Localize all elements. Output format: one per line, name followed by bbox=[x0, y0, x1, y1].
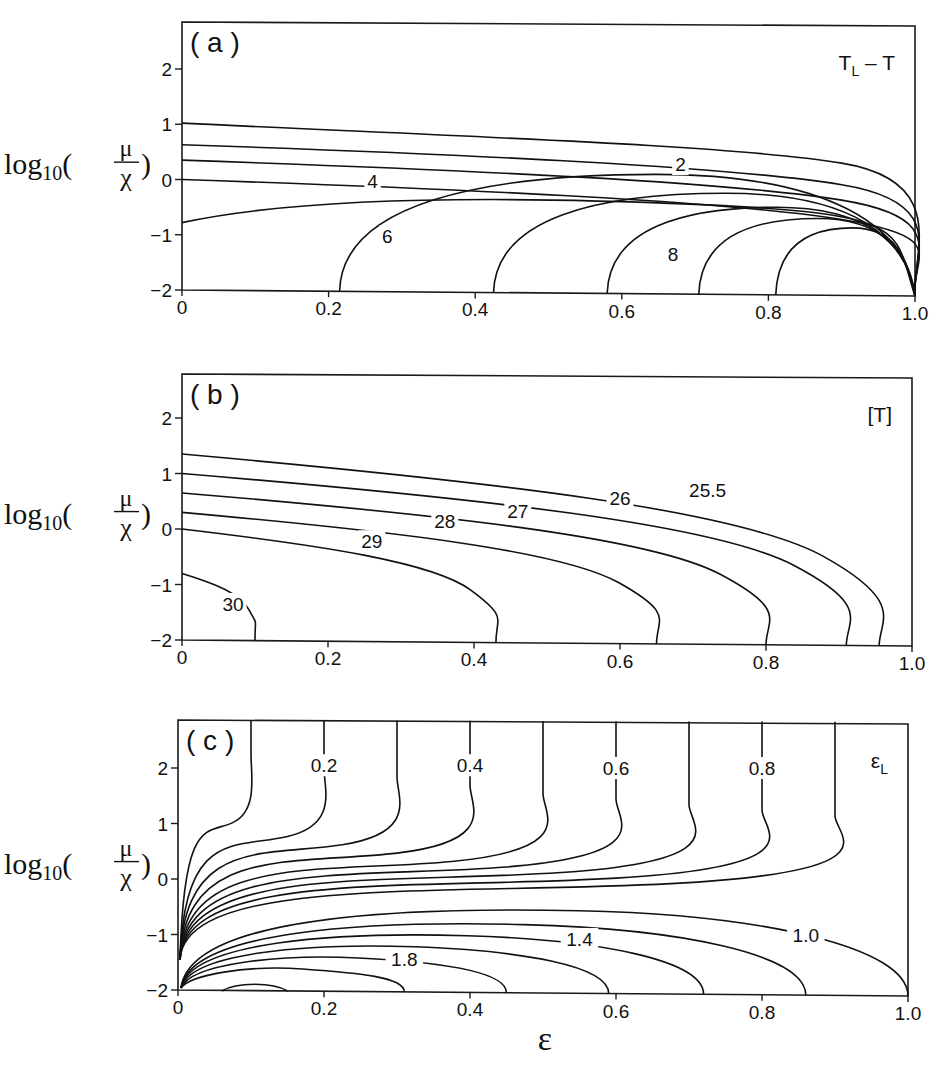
panel-a: 210−1−200.20.40.60.81.02468( a )TL – Tlo… bbox=[4, 22, 928, 324]
svg-text:μ: μ bbox=[120, 135, 133, 161]
x-tick-label: 0.6 bbox=[603, 1001, 629, 1022]
svg-text:log10(: log10( bbox=[4, 497, 72, 534]
x-tick-label: 0.8 bbox=[753, 652, 779, 673]
contour-line bbox=[776, 228, 915, 296]
plot-frame bbox=[182, 22, 915, 296]
y-tick-label: −1 bbox=[150, 225, 172, 246]
x-tick-label: 0 bbox=[177, 647, 188, 668]
svg-text:): ) bbox=[141, 497, 151, 531]
y-tick-label: −2 bbox=[150, 630, 172, 651]
contour-line bbox=[340, 174, 915, 296]
y-tick-label: 2 bbox=[161, 59, 172, 80]
svg-text:log10(: log10( bbox=[4, 147, 72, 184]
contour-line bbox=[182, 180, 919, 297]
contour-line bbox=[180, 721, 400, 960]
contour-label: 25.5 bbox=[689, 480, 726, 501]
quantity-label: TL – T bbox=[839, 51, 896, 79]
contour-line bbox=[182, 493, 770, 645]
svg-text:): ) bbox=[141, 847, 151, 881]
panel-tag: ( b ) bbox=[190, 379, 240, 410]
panel-c: 210−1−200.20.40.60.81.00.20.40.60.81.01.… bbox=[4, 720, 921, 1024]
contour-label: 6 bbox=[382, 226, 393, 247]
svg-text:χ: χ bbox=[119, 863, 132, 892]
contour-label: 2 bbox=[675, 154, 686, 175]
contour-line bbox=[607, 207, 915, 296]
x-tick-label: 0.8 bbox=[749, 1002, 775, 1023]
y-tick-label: 2 bbox=[157, 758, 168, 779]
y-tick-label: 1 bbox=[161, 114, 172, 135]
contour-line bbox=[182, 474, 851, 646]
contour-label: 26 bbox=[609, 488, 630, 509]
x-tick-label: 0.4 bbox=[457, 999, 484, 1020]
y-axis-label: log10(μχ) bbox=[4, 485, 151, 542]
y-tick-label: −2 bbox=[146, 980, 168, 1001]
contour-lines bbox=[182, 454, 884, 646]
x-tick-label: 1.0 bbox=[902, 303, 928, 324]
x-axis-label: ε bbox=[538, 1020, 552, 1057]
x-tick-label: 0.8 bbox=[755, 302, 781, 323]
contour-label: 1.8 bbox=[391, 949, 417, 970]
contour-lines bbox=[180, 720, 908, 996]
contour-line bbox=[180, 720, 326, 960]
contour-label: 0.4 bbox=[457, 755, 484, 776]
y-tick-label: 0 bbox=[157, 869, 168, 890]
contour-line bbox=[181, 910, 908, 996]
x-tick-label: 0.2 bbox=[311, 998, 337, 1019]
contour-label: 0.6 bbox=[603, 758, 629, 779]
y-tick-label: −2 bbox=[150, 280, 172, 301]
y-tick-label: 2 bbox=[161, 408, 172, 429]
contour-label: 0.2 bbox=[311, 755, 337, 776]
svg-text:χ: χ bbox=[119, 163, 132, 192]
x-tick-label: 0.6 bbox=[609, 301, 635, 322]
contour-line bbox=[182, 529, 498, 643]
contour-label: 29 bbox=[361, 531, 382, 552]
contour-label: 1.4 bbox=[566, 929, 593, 950]
contour-label: 1.0 bbox=[793, 925, 819, 946]
contour-figure: 210−1−200.20.40.60.81.02468( a )TL – Tlo… bbox=[0, 0, 952, 1065]
panel-tag: ( c ) bbox=[186, 725, 234, 756]
x-tick-label: 0.6 bbox=[607, 651, 633, 672]
x-tick-label: 0.2 bbox=[315, 648, 341, 669]
svg-text:μ: μ bbox=[120, 485, 133, 511]
y-axis-label: log10(μχ) bbox=[4, 135, 151, 192]
contour-line bbox=[182, 512, 660, 644]
x-tick-label: 0.4 bbox=[461, 649, 488, 670]
y-tick-label: −1 bbox=[150, 575, 172, 596]
contour-label: 4 bbox=[367, 171, 378, 192]
panel-tag: ( a ) bbox=[190, 27, 240, 58]
contour-label: 30 bbox=[223, 594, 244, 615]
contour-label: 27 bbox=[507, 501, 528, 522]
contour-line bbox=[181, 968, 404, 992]
x-tick-label: 0 bbox=[177, 297, 188, 318]
contour-label: 28 bbox=[434, 511, 455, 532]
svg-text:μ: μ bbox=[120, 835, 133, 861]
x-tick-label: 1.0 bbox=[895, 1003, 921, 1024]
quantity-label: εL bbox=[871, 749, 888, 777]
panel-b: 210−1−200.20.40.60.81.025.52627282930( b… bbox=[4, 374, 925, 674]
contour-line bbox=[494, 193, 915, 296]
y-tick-label: 0 bbox=[161, 170, 172, 191]
svg-text:log10(: log10( bbox=[4, 847, 72, 884]
x-tick-label: 1.0 bbox=[899, 653, 925, 674]
contour-label: 8 bbox=[668, 244, 679, 265]
svg-text:): ) bbox=[141, 147, 151, 181]
x-tick-label: 0.2 bbox=[315, 298, 341, 319]
svg-text:χ: χ bbox=[119, 513, 132, 542]
contour-lines bbox=[182, 123, 919, 296]
y-tick-label: 1 bbox=[157, 814, 168, 835]
y-tick-label: 0 bbox=[161, 519, 172, 540]
y-axis-label: log10(μχ) bbox=[4, 835, 151, 892]
y-tick-label: −1 bbox=[146, 925, 168, 946]
x-tick-label: 0.4 bbox=[462, 299, 489, 320]
contour-label: 0.8 bbox=[749, 758, 775, 779]
y-tick-label: 1 bbox=[161, 464, 172, 485]
x-tick-label: 0 bbox=[173, 997, 184, 1018]
quantity-label: [T] bbox=[868, 403, 893, 426]
